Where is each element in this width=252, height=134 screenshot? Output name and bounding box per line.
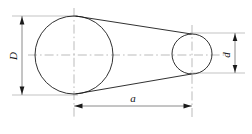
belt-tangent-upper (76, 16, 192, 34)
arrowhead-a-left (75, 104, 83, 109)
label-small-diameter: d (220, 52, 232, 58)
arrowhead-D-top (20, 17, 25, 25)
pulley-drive-diagram: D d a (0, 0, 252, 134)
label-center-distance: a (130, 92, 136, 104)
arrowhead-a-right (184, 104, 192, 109)
arrowhead-d-top (233, 34, 238, 42)
arrowhead-D-bottom (20, 87, 25, 95)
technical-drawing-canvas: D d a (0, 0, 252, 134)
arrowhead-d-bottom (233, 65, 238, 73)
belt-tangent-lower (76, 74, 192, 94)
label-large-diameter: D (7, 52, 19, 61)
